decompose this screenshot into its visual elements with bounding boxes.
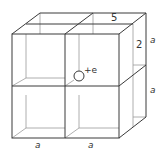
- right-lower-edge-label: a: [150, 85, 156, 95]
- bottom-right-edge-label: a: [88, 140, 94, 150]
- top-depth-label: 5: [111, 12, 117, 23]
- charge-label: +e: [84, 65, 98, 75]
- right-upper-edge-label: a: [150, 35, 156, 45]
- charge-circle-icon: [74, 71, 84, 81]
- side-depth-label: 2: [136, 39, 142, 50]
- bottom-left-edge-label: a: [35, 140, 41, 150]
- cube-lattice-diagram: +e 5 2 a a a a: [0, 0, 163, 157]
